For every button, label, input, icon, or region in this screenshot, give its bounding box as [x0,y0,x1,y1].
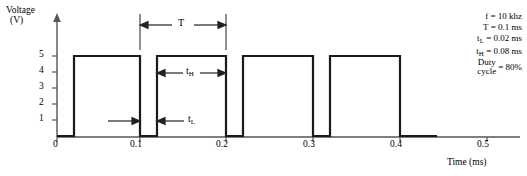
duty-cycle-stack: Duty cycle [477,58,496,76]
t-high-label: tH [186,66,194,78]
t-high-label-sub: H [189,70,194,78]
y-tick-label-4: 4 [39,66,44,76]
y-tick-label-1: 1 [39,114,44,124]
t-low-label: tL [188,114,195,126]
note-t-high: tH = 0.08 ms [418,46,522,58]
x-tick-label-0-3: 0.3 [303,140,315,150]
y-axis-title: Voltage (V) [6,6,35,26]
y-axis-title-line1: Voltage [6,5,35,15]
x-tick-label-0-4: 0.4 [390,140,402,150]
note-frequency: f = 10 khz [418,11,522,21]
y-axis [53,13,61,137]
x-tick-label-0: 0 [53,140,58,150]
t-low-label-sub: L [191,118,195,126]
y-tick-label-3: 3 [39,82,44,92]
note-t-high-value: = 0.08 ms [484,46,522,56]
duty-cycle-line2: cycle [477,67,496,76]
note-t-low-value: = 0.02 ms [484,33,522,43]
duty-cycle-value: = 80% [498,62,522,72]
y-tick-label-5: 5 [39,50,44,60]
x-tick-label-0-5: 0.5 [477,140,489,150]
x-tick-marks [57,137,487,142]
y-tick-marks [52,56,57,120]
note-duty-cycle: Duty cycle = 80% [418,58,522,76]
x-tick-label-0-2: 0.2 [216,140,228,150]
x-tick-label-0-1: 0.1 [130,140,142,150]
y-tick-label-2: 2 [39,98,44,108]
parameter-notes: f = 10 khz T = 0.1 ms tL = 0.02 ms tH = … [418,11,522,77]
note-period: T = 0.1 ms [418,22,522,32]
y-axis-title-line2: (V) [6,16,35,26]
note-t-low: tL = 0.02 ms [418,33,522,45]
t-low-arrow [108,118,184,125]
period-label: T [178,18,184,29]
x-axis-title: Time (ms) [447,158,487,168]
waveform-trace [57,56,437,136]
